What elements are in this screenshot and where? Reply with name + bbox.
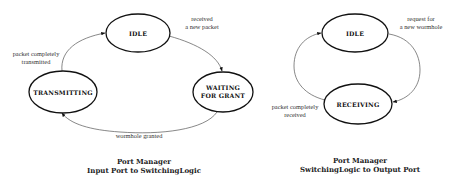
edge-label-packet-completely-received-1: packet completely bbox=[272, 103, 319, 110]
edge-waiting-to-transmitting bbox=[62, 112, 217, 133]
caption-right-title: Port Manager bbox=[333, 156, 387, 165]
edge-label-new-wormhole: a new wormhole bbox=[400, 23, 443, 30]
state-diagrams-canvas: received a new packet wormhole granted p… bbox=[0, 0, 460, 188]
edge-label-received: received bbox=[191, 15, 213, 22]
caption-left-title: Port Manager bbox=[117, 157, 171, 166]
edge-receiving-to-idle bbox=[294, 33, 325, 100]
input-port-diagram: received a new packet wormhole granted p… bbox=[13, 14, 253, 175]
state-idle: IDLE bbox=[106, 14, 170, 52]
edge-label-request-for: request for bbox=[407, 15, 435, 22]
state-waiting-label-line2: FOR GRANT bbox=[201, 92, 246, 99]
caption-left-subtitle: Input Port to SwitchingLogic bbox=[87, 166, 201, 175]
edge-label-transmitted: transmitted bbox=[22, 58, 52, 65]
edge-label-packet-completely-received-2: received bbox=[284, 111, 306, 118]
output-port-diagram: request for a new wormhole packet comple… bbox=[272, 14, 443, 174]
state-transmitting-label: TRANSMITTING bbox=[33, 89, 93, 96]
state-idle-output-label: IDLE bbox=[346, 30, 364, 37]
state-idle-label: IDLE bbox=[129, 30, 147, 37]
state-transmitting: TRANSMITTING bbox=[29, 71, 97, 113]
state-waiting-label-line1: WAITING bbox=[205, 84, 240, 91]
edge-idle-to-receiving bbox=[389, 34, 420, 102]
caption-right-subtitle: SwitchingLogic to Output Port bbox=[300, 165, 421, 174]
edge-transmitting-to-idle bbox=[62, 33, 105, 71]
edge-label-wormhole-granted: wormhole granted bbox=[116, 132, 163, 139]
state-waiting-for-grant: WAITING FOR GRANT bbox=[193, 72, 253, 112]
edge-label-new-packet: a new packet bbox=[185, 23, 219, 30]
edge-idle-to-waiting bbox=[169, 36, 222, 71]
state-receiving: RECEIVING bbox=[324, 84, 392, 124]
edge-label-packet-completely: packet completely bbox=[13, 50, 60, 57]
state-receiving-label: RECEIVING bbox=[337, 101, 380, 108]
state-idle-output: IDLE bbox=[322, 14, 388, 52]
